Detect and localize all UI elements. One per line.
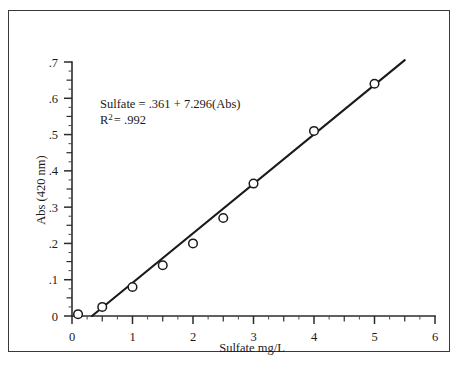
data-point-marker (310, 127, 319, 136)
data-point-marker (158, 261, 167, 270)
x-axis-tick-label: 0 (69, 330, 75, 344)
y-axis-tick-label: .4 (49, 164, 59, 178)
y-axis-tick-label: .6 (49, 92, 58, 106)
x-axis-tick-label: 4 (311, 330, 318, 344)
x-axis-tick-label: 1 (129, 330, 135, 344)
x-axis-title: Sulfate mg/L (219, 341, 285, 355)
x-axis-tick-label: 6 (432, 330, 438, 344)
data-point-marker (249, 179, 258, 188)
data-point-marker (219, 214, 228, 223)
y-axis-tick-label: .5 (49, 128, 58, 142)
data-point-marker (189, 239, 198, 248)
data-point-marker (370, 79, 379, 88)
y-axis-tick-label: .1 (49, 273, 58, 287)
x-axis-tick-label: 2 (190, 330, 196, 344)
y-axis-title: Abs (420 nm) (34, 155, 48, 224)
y-axis-tick-label: .7 (49, 56, 58, 70)
y-axis-tick-label: .2 (49, 237, 58, 251)
data-point-marker (128, 283, 137, 292)
y-axis-tick-label: 0 (52, 310, 58, 324)
data-point-marker (98, 303, 107, 312)
r-squared-label: R2= .992 (100, 112, 146, 127)
figure-container: 01234560.1.2.3.4.5.6.7 Abs (420 nm) Sulf… (0, 0, 459, 366)
data-point-marker (74, 310, 83, 319)
regression-equation-label: Sulfate = .361 + 7.296(Abs) (100, 97, 240, 111)
x-axis-tick-label: 5 (371, 330, 377, 344)
scatter-plot: 01234560.1.2.3.4.5.6.7 Abs (420 nm) Sulf… (0, 0, 459, 366)
y-axis-tick-label: .3 (49, 201, 58, 215)
